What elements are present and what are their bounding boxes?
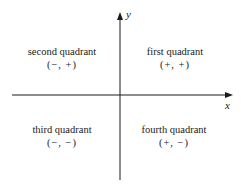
quadrant-third: third quadrant (−, −) xyxy=(32,123,91,149)
y-axis-arrow-icon xyxy=(117,12,123,20)
quadrant-name: third quadrant xyxy=(32,124,91,135)
y-axis-label: y xyxy=(126,8,131,20)
quadrant-signs: (−, −) xyxy=(32,136,91,149)
quadrant-signs: (−, +) xyxy=(28,58,97,71)
quadrant-first: first quadrant (+, +) xyxy=(147,45,203,71)
quadrant-fourth: fourth quadrant (+, −) xyxy=(141,123,206,149)
quadrant-signs: (+, +) xyxy=(147,58,203,71)
quadrant-name: first quadrant xyxy=(147,46,203,57)
quadrant-name: second quadrant xyxy=(28,46,97,57)
coordinate-axes xyxy=(0,0,243,190)
quadrant-signs: (+, −) xyxy=(141,136,206,149)
quadrant-name: fourth quadrant xyxy=(141,124,206,135)
x-axis-arrow-icon xyxy=(225,92,233,98)
quadrant-second: second quadrant (−, +) xyxy=(28,45,97,71)
x-axis-label: x xyxy=(225,99,230,111)
